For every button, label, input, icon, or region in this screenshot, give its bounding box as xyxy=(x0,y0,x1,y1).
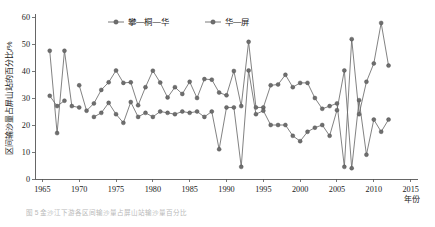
data-point xyxy=(129,100,133,104)
data-point xyxy=(372,118,376,122)
legend-label: 攀—桐—华 xyxy=(128,17,169,27)
data-point xyxy=(158,110,162,114)
data-point xyxy=(320,123,324,127)
data-point xyxy=(195,96,199,100)
data-point xyxy=(342,68,346,72)
data-point xyxy=(166,111,170,115)
y-tick-label: 20 xyxy=(22,121,30,130)
legend-label: 华—屏 xyxy=(225,17,249,27)
data-point xyxy=(173,85,177,89)
x-tick-label: 2000 xyxy=(292,185,308,194)
data-point xyxy=(92,101,96,105)
data-point xyxy=(239,104,243,108)
x-tick-label: 2015 xyxy=(402,185,418,194)
data-point xyxy=(342,165,346,169)
legend-item[interactable]: 攀—桐—华 xyxy=(108,17,169,27)
data-point xyxy=(276,83,280,87)
data-point xyxy=(166,95,170,99)
data-point xyxy=(320,107,324,111)
data-point xyxy=(202,115,206,119)
data-point xyxy=(173,112,177,116)
chart-legend: 攀—桐—华华—屏 xyxy=(108,17,249,27)
data-point xyxy=(62,99,66,103)
data-point xyxy=(210,110,214,114)
data-point xyxy=(217,147,221,151)
y-tick-label: 40 xyxy=(22,67,30,76)
data-point xyxy=(121,81,125,85)
data-point xyxy=(217,91,221,95)
data-point xyxy=(180,110,184,114)
data-point xyxy=(107,80,111,84)
data-point xyxy=(328,104,332,108)
y-tick-label: 10 xyxy=(22,148,30,157)
data-point xyxy=(239,165,243,169)
data-point xyxy=(350,166,354,170)
y-tick-label: 0 xyxy=(26,175,30,184)
data-point xyxy=(283,123,287,127)
data-point xyxy=(372,61,376,65)
data-point xyxy=(180,92,184,96)
data-point xyxy=(48,49,52,53)
data-point xyxy=(225,105,229,109)
data-point xyxy=(99,111,103,115)
series-line xyxy=(79,23,388,167)
data-point xyxy=(77,105,81,109)
y-axis-title: 区间输沙量占屏山站的百分比/% xyxy=(4,41,14,154)
data-point xyxy=(232,105,236,109)
data-point xyxy=(328,134,332,138)
data-point xyxy=(85,109,89,113)
data-point xyxy=(247,68,251,72)
data-point xyxy=(136,115,140,119)
x-tick-label: 2010 xyxy=(366,185,382,194)
data-point xyxy=(269,123,273,127)
legend-item[interactable]: 华—屏 xyxy=(205,17,249,27)
data-point xyxy=(283,73,287,77)
data-point xyxy=(269,83,273,87)
data-point xyxy=(77,83,81,87)
y-tick-label: 30 xyxy=(22,94,30,103)
x-tick-label: 1990 xyxy=(218,185,234,194)
data-point xyxy=(298,139,302,143)
data-point xyxy=(121,121,125,125)
data-point xyxy=(313,126,317,130)
data-point xyxy=(202,77,206,81)
data-point xyxy=(225,93,229,97)
figure-caption: 图 5 金沙江下游各区间输沙量占屏山站输沙量百分比 xyxy=(26,208,356,217)
data-point xyxy=(306,130,310,134)
data-point xyxy=(151,115,155,119)
x-axis-title: 年份 xyxy=(404,194,420,204)
data-point xyxy=(350,37,354,41)
data-point xyxy=(99,88,103,92)
data-point xyxy=(188,111,192,115)
y-axis-ticks: 0102030405060 xyxy=(22,13,35,184)
data-point xyxy=(188,80,192,84)
data-point xyxy=(143,111,147,115)
data-point xyxy=(151,69,155,73)
y-tick-label: 50 xyxy=(22,40,30,49)
data-point xyxy=(70,104,74,108)
data-point xyxy=(379,130,383,134)
x-tick-label: 1965 xyxy=(34,185,50,194)
data-point xyxy=(313,96,317,100)
data-point xyxy=(62,49,66,53)
data-point xyxy=(247,40,251,44)
data-point xyxy=(143,85,147,89)
data-point xyxy=(48,94,52,98)
data-point xyxy=(114,112,118,116)
data-point xyxy=(291,85,295,89)
data-point xyxy=(158,81,162,85)
legend-marker-icon xyxy=(211,20,215,24)
y-tick-label: 60 xyxy=(22,13,30,22)
series-layer xyxy=(48,21,391,170)
x-tick-label: 1995 xyxy=(255,185,271,194)
data-point xyxy=(107,101,111,105)
data-point xyxy=(335,108,339,112)
data-point xyxy=(364,153,368,157)
x-tick-label: 1975 xyxy=(108,185,124,194)
data-point xyxy=(291,134,295,138)
data-point xyxy=(298,81,302,85)
data-point xyxy=(379,21,383,25)
data-point xyxy=(387,64,391,68)
data-point xyxy=(357,98,361,102)
data-point xyxy=(232,69,236,73)
